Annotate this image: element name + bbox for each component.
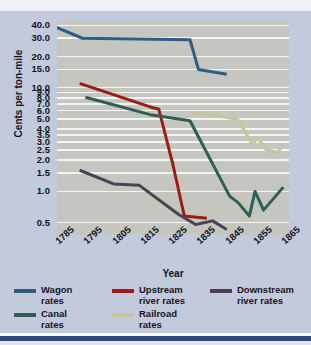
y-tick-label: 1.5 [37, 168, 50, 177]
x-axis-title: Year [57, 268, 289, 279]
y-tick-label: 2.5 [37, 145, 50, 154]
x-axis-ticks: 178517951805181518251835184518551865 [57, 238, 297, 268]
legend-item[interactable]: Canal rates [14, 309, 67, 330]
legend-item[interactable]: Upstream river rates [112, 285, 185, 306]
legend-label: Upstream river rates [139, 285, 185, 306]
legend-swatch [14, 289, 36, 293]
legend-swatch [112, 313, 134, 317]
series-line-railroad-rates [193, 113, 284, 152]
y-tick-label: 40.0 [32, 20, 51, 29]
legend-item[interactable]: Wagon rates [14, 285, 72, 306]
bottom-accent-rule [0, 336, 311, 341]
legend-item[interactable]: Downstream river rates [210, 285, 294, 306]
legend-swatch [14, 313, 36, 317]
chart-figure: ·· ··· Cents per ton-mile 40.030.020.015… [0, 0, 311, 345]
plot-area [57, 21, 289, 235]
y-tick-label: 20.0 [32, 52, 51, 61]
y-tick-label: 5.0 [37, 114, 50, 123]
legend-label: Downstream river rates [237, 285, 294, 306]
legend-swatch [210, 289, 232, 293]
legend-label: Canal rates [41, 309, 67, 330]
series-line-wagon-rates [57, 28, 227, 75]
y-axis-ticks: 40.030.020.015.010.09.08.07.06.05.04.03.… [0, 21, 54, 235]
series-line-downstream-river-rates [80, 170, 227, 229]
chart-legend: Wagon ratesUpstream river ratesDownstrea… [14, 285, 302, 331]
legend-label: Railroad rates [139, 309, 177, 330]
legend-label: Wagon rates [41, 285, 72, 306]
y-tick-label: 1.0 [37, 186, 50, 195]
top-ghost-text: ·· ··· [26, 1, 46, 8]
legend-item[interactable]: Railroad rates [112, 309, 177, 330]
top-edge-strip: ·· ··· [0, 0, 311, 11]
y-tick-label: 30.0 [32, 33, 51, 42]
series-line-upstream-river-rates [80, 83, 207, 218]
series-line-canal-rates [85, 97, 283, 216]
legend-swatch [112, 289, 134, 293]
series-lines [57, 21, 289, 235]
y-tick-label: 15.0 [32, 64, 51, 73]
y-tick-label: 2.0 [37, 155, 50, 164]
y-tick-label: 0.5 [37, 218, 50, 227]
